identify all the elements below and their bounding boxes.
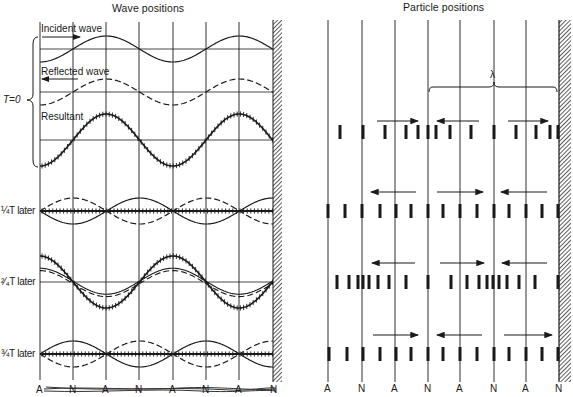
particle bbox=[435, 125, 438, 139]
particle bbox=[518, 275, 521, 289]
left-marker-4: N bbox=[135, 384, 142, 395]
particle bbox=[339, 125, 342, 139]
right-marker-8: N bbox=[555, 383, 562, 394]
particle bbox=[357, 275, 360, 289]
particle bbox=[515, 125, 518, 139]
particle bbox=[541, 347, 544, 361]
particle bbox=[525, 347, 528, 361]
particle bbox=[492, 275, 495, 289]
particle bbox=[442, 347, 445, 361]
particle bbox=[395, 347, 398, 361]
particle bbox=[377, 275, 380, 289]
left-axes bbox=[40, 49, 273, 282]
particle bbox=[541, 204, 544, 218]
left-marker-1: A bbox=[36, 384, 43, 395]
wave-positions-title: Wave positions bbox=[112, 2, 184, 14]
particle bbox=[346, 347, 349, 361]
figure-canvas bbox=[0, 0, 573, 397]
particle bbox=[442, 204, 445, 218]
particle bbox=[379, 347, 382, 361]
left-marker-5: A bbox=[169, 384, 176, 395]
standing-wave-figure: Wave positions Particle positions Incide… bbox=[0, 0, 573, 397]
t0-label: T=0 bbox=[3, 94, 21, 105]
left-reflecting-wall bbox=[273, 20, 282, 382]
t0-brace bbox=[27, 37, 38, 167]
right-marker-4: N bbox=[424, 383, 431, 394]
particle bbox=[508, 204, 511, 218]
half-t-label: ²⁄₄T later bbox=[1, 276, 35, 287]
particle bbox=[395, 204, 398, 218]
right-grid-lines bbox=[328, 20, 526, 382]
particle bbox=[388, 275, 391, 289]
left-marker-3: A bbox=[102, 384, 109, 395]
particle bbox=[534, 275, 537, 289]
particle bbox=[327, 204, 330, 218]
particle bbox=[549, 125, 552, 139]
wave-curves bbox=[40, 36, 273, 367]
quarter-t-label: ¼T later bbox=[1, 205, 35, 216]
particle bbox=[417, 125, 420, 139]
right-marker-3: A bbox=[391, 383, 398, 394]
particle bbox=[410, 204, 413, 218]
particle bbox=[557, 125, 560, 139]
particle bbox=[427, 204, 430, 218]
particle bbox=[449, 125, 452, 139]
resultant-label: Resultant bbox=[41, 111, 83, 122]
particle bbox=[362, 125, 365, 139]
particle bbox=[410, 347, 413, 361]
right-marker-6: N bbox=[490, 383, 497, 394]
particle bbox=[362, 347, 365, 361]
particle bbox=[427, 275, 430, 289]
right-marker-2: N bbox=[358, 383, 365, 394]
right-reflecting-wall bbox=[559, 20, 571, 382]
particle bbox=[493, 347, 496, 361]
particle bbox=[405, 275, 408, 289]
particle bbox=[525, 204, 528, 218]
particle bbox=[348, 275, 351, 289]
particle bbox=[470, 125, 473, 139]
reflected-wave-label: Reflected wave bbox=[41, 66, 109, 77]
right-marker-1: A bbox=[324, 383, 331, 394]
left-marker-7: A bbox=[235, 384, 242, 395]
particle bbox=[459, 204, 462, 218]
particle bbox=[476, 204, 479, 218]
particle bbox=[498, 275, 501, 289]
three-quarter-t-label: ¾T later bbox=[1, 348, 35, 359]
particle bbox=[535, 125, 538, 139]
particle bbox=[557, 204, 560, 218]
particle bbox=[557, 275, 560, 289]
lambda-label: λ bbox=[490, 69, 495, 80]
lambda-brace bbox=[429, 82, 557, 92]
particle-positions-title: Particle positions bbox=[403, 1, 484, 13]
particle bbox=[466, 275, 469, 289]
particle bbox=[557, 347, 560, 361]
particles bbox=[327, 125, 560, 361]
left-marker-2: N bbox=[69, 384, 76, 395]
left-marker-6: N bbox=[202, 384, 209, 395]
particle bbox=[506, 275, 509, 289]
right-marker-5: A bbox=[456, 383, 463, 394]
particle bbox=[405, 125, 408, 139]
particle bbox=[336, 275, 339, 289]
particle bbox=[361, 204, 364, 218]
particle bbox=[493, 204, 496, 218]
particle bbox=[459, 347, 462, 361]
particle bbox=[508, 347, 511, 361]
incident-wave-label: Incident wave bbox=[41, 23, 102, 34]
particle bbox=[368, 275, 371, 289]
particle bbox=[478, 275, 481, 289]
right-marker-7: A bbox=[522, 383, 529, 394]
particle bbox=[427, 125, 430, 139]
particle bbox=[362, 275, 365, 289]
particle bbox=[493, 125, 496, 139]
particle-motion-arrows bbox=[371, 121, 552, 335]
particle bbox=[328, 347, 331, 361]
left-marker-8: N bbox=[270, 384, 277, 395]
particle bbox=[450, 275, 453, 289]
particle bbox=[427, 347, 430, 361]
particle bbox=[486, 275, 489, 289]
particle bbox=[476, 347, 479, 361]
particle bbox=[384, 125, 387, 139]
particle bbox=[379, 204, 382, 218]
particle bbox=[344, 204, 347, 218]
